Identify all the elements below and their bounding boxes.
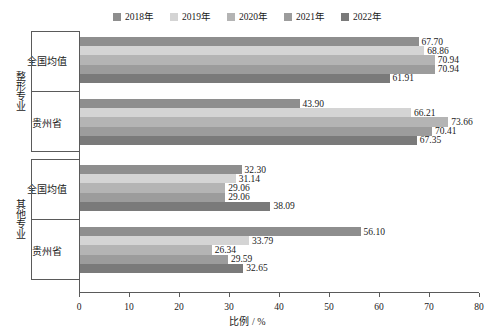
bar[interactable] (80, 202, 270, 211)
bar[interactable] (80, 74, 390, 83)
bar-row: 61.91 (80, 74, 479, 83)
legend-label: 2019年 (182, 12, 211, 22)
bar-value-label: 43.90 (300, 99, 324, 109)
category-axis-label: 全国均值 (18, 53, 76, 68)
category-bar-group: 67.7068.8670.9470.9461.91 (80, 37, 479, 83)
legend-swatch-icon (284, 13, 292, 21)
bar[interactable] (80, 193, 225, 202)
bar-row: 66.21 (80, 108, 479, 117)
group-bracket-cap (31, 151, 79, 152)
bar-value-label: 29.06 (225, 192, 249, 202)
legend-swatch-icon (170, 13, 178, 21)
bar-row: 67.70 (80, 37, 479, 46)
legend-label: 2020年 (239, 12, 268, 22)
group-axis-label: 其他专业 (12, 199, 27, 239)
bar-value-label: 67.35 (417, 135, 441, 145)
x-axis-tick (79, 293, 80, 297)
group-bracket-cap (31, 279, 79, 280)
bar-row: 32.30 (80, 165, 479, 174)
category-bar-group: 32.3031.1429.0629.0638.09 (80, 165, 479, 211)
group-bracket-cap (31, 31, 79, 32)
x-axis-tick (179, 293, 180, 297)
group-axis-label: 整形专业 (12, 71, 27, 111)
x-axis-tick (429, 293, 430, 297)
bar[interactable] (80, 99, 300, 108)
bar-chart: 2018年2019年2020年2021年2022年 01020304050607… (0, 0, 495, 336)
bar[interactable] (80, 127, 432, 136)
bar-row: 32.65 (80, 264, 479, 273)
category-separator (31, 219, 79, 220)
bar[interactable] (80, 37, 419, 46)
x-axis-tick-label: 20 (174, 302, 184, 312)
bar-row: 68.86 (80, 46, 479, 55)
bar-row: 67.35 (80, 136, 479, 145)
bar-value-label: 66.21 (411, 108, 435, 118)
x-axis-tick-label: 80 (474, 302, 484, 312)
x-axis-tick-label: 60 (374, 302, 384, 312)
category-axis-label: 全国均值 (18, 181, 76, 196)
legend-item[interactable]: 2022年 (341, 12, 382, 22)
category-bar-group: 56.1033.7926.3429.5932.65 (80, 227, 479, 273)
bar[interactable] (80, 264, 243, 273)
bar[interactable] (80, 165, 242, 174)
x-axis-tick (379, 293, 380, 297)
bar[interactable] (80, 117, 448, 126)
legend-label: 2018年 (125, 12, 154, 22)
bar-value-label: 56.10 (361, 227, 385, 237)
chart-legend: 2018年2019年2020年2021年2022年 (0, 12, 495, 22)
category-axis-label: 贵州省 (18, 115, 76, 130)
x-axis-tick-label: 30 (224, 302, 234, 312)
bar-row: 29.06 (80, 183, 479, 192)
bar-row: 70.94 (80, 55, 479, 64)
legend-swatch-icon (227, 13, 235, 21)
bar-row: 29.59 (80, 255, 479, 264)
bar-row: 56.10 (80, 227, 479, 236)
legend-item[interactable]: 2019年 (170, 12, 211, 22)
category-bar-group: 43.9066.2173.6670.4167.35 (80, 99, 479, 145)
x-axis-tick (279, 293, 280, 297)
x-axis-tick (129, 293, 130, 297)
category-axis-label: 贵州省 (18, 243, 76, 258)
legend-item[interactable]: 2021年 (284, 12, 325, 22)
plot-area: 0102030405060708067.7068.8670.9470.9461.… (79, 31, 479, 293)
x-axis-tick-label: 10 (124, 302, 134, 312)
x-axis-tick-label: 70 (424, 302, 434, 312)
bar-row: 73.66 (80, 117, 479, 126)
bar-row: 31.14 (80, 174, 479, 183)
x-axis-tick-label: 0 (77, 302, 82, 312)
group-bracket-cap (31, 159, 79, 160)
bar-value-label: 33.79 (249, 236, 273, 246)
x-axis-tick (229, 293, 230, 297)
bar-row: 33.79 (80, 236, 479, 245)
bar[interactable] (80, 183, 225, 192)
x-axis-tick (479, 293, 480, 297)
x-axis-tick-label: 40 (274, 302, 284, 312)
legend-label: 2021年 (296, 12, 325, 22)
bar-row: 38.09 (80, 202, 479, 211)
bar[interactable] (80, 245, 212, 254)
bar[interactable] (80, 108, 411, 117)
group-bracket (31, 159, 32, 279)
bar[interactable] (80, 255, 228, 264)
x-axis-tick (329, 293, 330, 297)
bar[interactable] (80, 227, 361, 236)
bar-row: 26.34 (80, 245, 479, 254)
bar-value-label: 61.91 (390, 73, 414, 83)
group-bracket (31, 31, 32, 151)
bar[interactable] (80, 65, 435, 74)
bar-value-label: 70.94 (435, 64, 459, 74)
x-axis-tick-label: 50 (324, 302, 334, 312)
x-axis-title: 比例 / % (0, 313, 495, 328)
bar-row: 70.94 (80, 65, 479, 74)
legend-swatch-icon (341, 13, 349, 21)
legend-swatch-icon (113, 13, 121, 21)
legend-item[interactable]: 2020年 (227, 12, 268, 22)
bar-value-label: 32.65 (243, 263, 267, 273)
bar-value-label: 38.09 (270, 201, 294, 211)
bar[interactable] (80, 55, 435, 64)
bar[interactable] (80, 46, 424, 55)
legend-item[interactable]: 2018年 (113, 12, 154, 22)
bar[interactable] (80, 136, 417, 145)
category-separator (31, 91, 79, 92)
bar[interactable] (80, 174, 236, 183)
